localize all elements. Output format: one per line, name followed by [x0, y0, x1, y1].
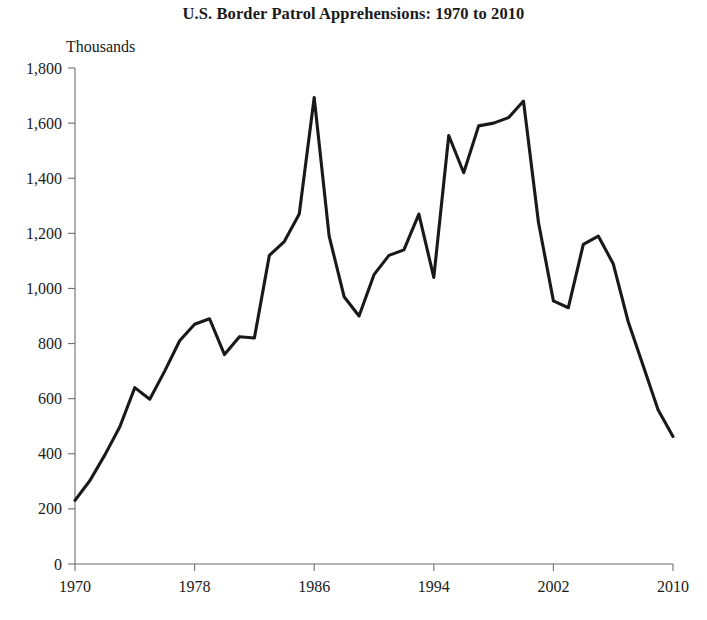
y-axis-tick-label: 1,400 — [26, 170, 62, 187]
chart-plot-area: 1,8001,6001,4001,2001,0008006004002000 1… — [0, 0, 707, 620]
x-axis-tick-group: 197019781986199420022010 — [59, 564, 689, 595]
chart-container: U.S. Border Patrol Apprehensions: 1970 t… — [0, 0, 707, 620]
y-axis-tick-label: 0 — [54, 556, 62, 573]
y-axis-tick-label: 200 — [38, 500, 62, 517]
y-axis-tick-label: 400 — [38, 445, 62, 462]
y-axis-tick-label: 1,800 — [26, 60, 62, 77]
x-axis-tick-label: 2010 — [657, 578, 689, 595]
y-axis-tick-label: 1,600 — [26, 115, 62, 132]
x-axis-tick-label: 1970 — [59, 578, 91, 595]
y-axis-tick-label: 800 — [38, 335, 62, 352]
x-axis-tick-label: 1986 — [298, 578, 330, 595]
y-axis-tick-label: 1,200 — [26, 225, 62, 242]
series-group — [75, 97, 673, 500]
y-axis-tick-label: 1,000 — [26, 280, 62, 297]
x-axis-tick-label: 2002 — [537, 578, 569, 595]
y-axis-tick-group: 1,8001,6001,4001,2001,0008006004002000 — [26, 60, 75, 573]
y-axis-tick-label: 600 — [38, 390, 62, 407]
x-axis-tick-label: 1994 — [418, 578, 450, 595]
axis-frame — [75, 68, 673, 564]
data-series-line — [75, 97, 673, 500]
x-axis-tick-label: 1978 — [179, 578, 211, 595]
